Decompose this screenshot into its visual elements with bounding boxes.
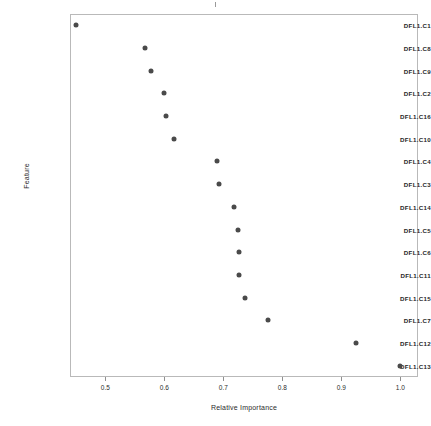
data-point — [73, 23, 78, 28]
y-axis-tick-label: DFL1.C1 — [365, 22, 431, 29]
y-axis-tick-label: DFL1.C2 — [365, 90, 431, 97]
scatter-chart: Feature Relative Importance DFL1.C1DFL1.… — [0, 0, 431, 426]
data-point — [163, 114, 168, 119]
y-axis-tick-label: DFL1.C16 — [365, 113, 431, 120]
data-point — [231, 204, 236, 209]
x-axis-tick-label: 0.5 — [101, 384, 110, 391]
x-axis-tick-mark — [223, 377, 224, 381]
data-point — [216, 182, 221, 187]
y-axis-tick-label: DFL1.C14 — [365, 203, 431, 210]
data-point — [172, 136, 177, 141]
data-point — [242, 295, 247, 300]
data-point — [143, 46, 148, 51]
y-axis-tick-label: DFL1.C6 — [365, 249, 431, 256]
data-point — [162, 91, 167, 96]
y-axis-tick-label: DFL1.C4 — [365, 158, 431, 165]
x-axis-tick-mark — [164, 377, 165, 381]
data-point — [215, 159, 220, 164]
data-point — [265, 318, 270, 323]
y-axis-tick-label: DFL1.C10 — [365, 135, 431, 142]
x-axis-tick-label: 0.9 — [337, 384, 346, 391]
x-axis-tick-label: 1.0 — [396, 384, 405, 391]
y-axis-tick-label: DFL1.C12 — [365, 339, 431, 346]
y-axis-tick-label: DFL1.C3 — [365, 181, 431, 188]
x-axis-tick-label: 0.6 — [160, 384, 169, 391]
data-point — [398, 363, 403, 368]
data-point — [237, 250, 242, 255]
top-axis-tick — [215, 2, 216, 7]
x-axis-tick-label: 0.7 — [219, 384, 228, 391]
y-axis-title: Feature — [23, 141, 30, 211]
x-axis-tick-label: 0.8 — [278, 384, 287, 391]
y-axis-tick-label: DFL1.C7 — [365, 317, 431, 324]
y-axis-tick-label: DFL1.C11 — [365, 271, 431, 278]
y-axis-tick-label: DFL1.C9 — [365, 67, 431, 74]
x-axis-tick-mark — [105, 377, 106, 381]
data-point — [236, 227, 241, 232]
x-axis-tick-mark — [341, 377, 342, 381]
x-axis-title: Relative Importance — [70, 404, 418, 411]
y-axis-tick-label: DFL1.C15 — [365, 294, 431, 301]
data-point — [149, 68, 154, 73]
data-point — [237, 272, 242, 277]
y-axis-tick-label: DFL1.C8 — [365, 45, 431, 52]
y-axis-tick-label: DFL1.C5 — [365, 226, 431, 233]
data-point — [354, 340, 359, 345]
x-axis-tick-mark — [282, 377, 283, 381]
x-axis-tick-mark — [400, 377, 401, 381]
